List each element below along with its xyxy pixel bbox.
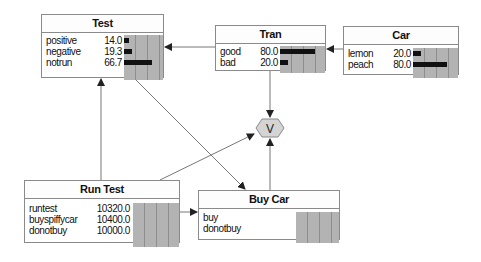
state-value: 66.7 (104, 57, 122, 68)
state-row: peach 80.0 (344, 59, 458, 70)
edge-runtest-v (160, 134, 254, 180)
edge-test-buycar (133, 77, 245, 189)
state-row: lemon 20.0 (344, 48, 458, 59)
state-row: donotbuy 10000.0 (25, 225, 179, 236)
state-label: positive (46, 35, 77, 46)
state-value: 10320.0 (97, 203, 130, 214)
node-title: Test (42, 15, 163, 33)
state-label: buy (203, 212, 218, 223)
utility-node-v[interactable]: V (255, 118, 285, 138)
state-row: good 80.0 (216, 46, 325, 57)
state-row: donotbuy (199, 223, 339, 234)
state-value: 10400.0 (97, 214, 130, 225)
node-buy-car[interactable]: Buy Car buy donotbuy (198, 190, 340, 240)
node-test[interactable]: Test positive 14.0 negative 19.3 notrun … (41, 14, 164, 78)
state-row: negative 19.3 (42, 46, 163, 57)
state-row: runtest 10320.0 (25, 203, 179, 214)
state-label: negative (46, 46, 81, 57)
node-run-test[interactable]: Run Test runtest 10320.0 buyspiffycar 10… (24, 180, 180, 243)
state-label: good (220, 46, 241, 57)
state-label: bad (220, 57, 236, 68)
state-value: 20.0 (393, 48, 411, 59)
node-title: Car (344, 27, 458, 45)
state-label: donotbuy (29, 225, 67, 236)
belief-bar (280, 60, 288, 65)
utility-label: V (266, 122, 274, 136)
state-label: notrun (46, 57, 72, 68)
state-value: 10000.0 (97, 225, 130, 236)
state-label: runtest (29, 203, 57, 214)
belief-bar (124, 49, 132, 54)
state-row: notrun 66.7 (42, 57, 163, 68)
belief-bar (413, 51, 421, 56)
state-row: buy (199, 212, 339, 223)
state-label: donotbuy (203, 223, 241, 234)
state-value: 80.0 (260, 46, 278, 57)
node-tran[interactable]: Tran good 80.0 bad 20.0 (215, 25, 326, 71)
state-value: 19.3 (104, 46, 122, 57)
node-car[interactable]: Car lemon 20.0 peach 80.0 (343, 26, 459, 75)
belief-bar (124, 60, 152, 65)
node-title: Run Test (25, 181, 179, 199)
state-row: bad 20.0 (216, 57, 325, 68)
state-label: buyspiffycar (29, 214, 77, 225)
node-title: Buy Car (199, 191, 339, 209)
belief-bar (124, 38, 129, 43)
state-value: 80.0 (393, 59, 411, 70)
belief-bar (413, 62, 447, 67)
state-row: buyspiffycar 10400.0 (25, 214, 179, 225)
state-value: 14.0 (104, 35, 122, 46)
state-row: positive 14.0 (42, 35, 163, 46)
state-label: lemon (348, 48, 373, 59)
belief-bar (280, 49, 315, 54)
node-title: Tran (216, 26, 325, 44)
state-value: 20.0 (260, 57, 278, 68)
state-label: peach (348, 59, 373, 70)
